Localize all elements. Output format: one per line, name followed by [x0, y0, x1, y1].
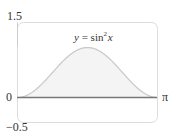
y-tick-1.5: 1.5	[7, 10, 22, 22]
area-fill	[18, 48, 158, 98]
title-eq: = sin	[79, 31, 104, 43]
y-tick-0: 0	[6, 91, 12, 103]
title-x: x	[108, 31, 113, 43]
y-tick-neg0.5: −0.5	[6, 121, 28, 133]
title-exponent: 2	[103, 30, 107, 38]
x-tick-pi: π	[162, 91, 168, 103]
chart-canvas	[0, 0, 173, 137]
chart-title: y = sin2 x	[74, 31, 113, 43]
